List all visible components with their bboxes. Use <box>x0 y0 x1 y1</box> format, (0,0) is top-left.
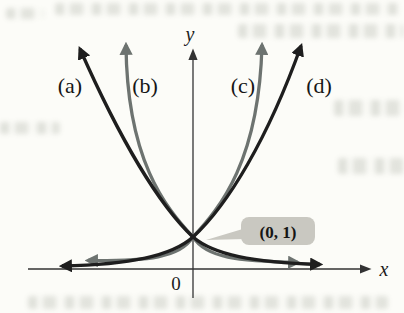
point-annotation-callout: (0, 1) <box>206 217 315 245</box>
origin-label: 0 <box>171 273 181 294</box>
curve-c-label: (c) <box>231 73 255 98</box>
callout-tail <box>206 228 246 240</box>
exponential-curves-figure: y x 0 (a) (b) (c) (d) (0, 1) <box>0 0 404 313</box>
plot-svg: y x 0 (a) (b) (c) (d) (0, 1) <box>0 0 404 313</box>
curve-d-label: (d) <box>306 73 332 98</box>
callout-text: (0, 1) <box>260 223 297 242</box>
curve-b-label: (b) <box>132 73 158 98</box>
curve-a-label: (a) <box>58 73 82 98</box>
y-axis-label: y <box>184 23 195 46</box>
x-axis-label: x <box>379 258 389 280</box>
